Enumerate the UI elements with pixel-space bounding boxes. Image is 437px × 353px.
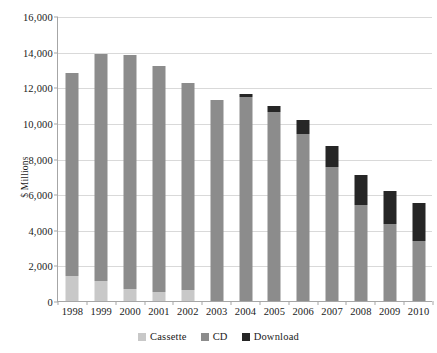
legend-label: CD [213,331,228,342]
x-axis-tick-mark [259,301,260,305]
gridline [58,17,432,18]
x-axis-tick-mark [173,301,174,305]
x-axis-tick-label-2006: 2006 [292,306,313,317]
y-axis-tick-label: 12,000 [23,83,53,94]
bar-2003[interactable] [210,100,223,301]
bar-segment-cd[interactable] [124,55,137,288]
x-axis-tick-label-2010: 2010 [408,306,429,317]
x-axis-tick-mark [144,301,145,305]
bar-2001[interactable] [152,66,165,301]
legend-label: Cassette [150,331,187,342]
x-axis-tick-mark [231,301,232,305]
y-axis-tick-mark [54,17,58,18]
y-axis-tick-label: 10,000 [23,118,53,129]
bar-segment-download[interactable] [326,146,339,166]
y-axis-tick-label: 0 [48,297,53,308]
x-axis-tick-mark [346,301,347,305]
bar-segment-cd[interactable] [354,205,367,301]
y-axis-tick-mark [54,266,58,267]
bar-segment-cassette[interactable] [181,290,194,301]
gridline [58,53,432,54]
x-axis-tick-mark [86,301,87,305]
bar-2004[interactable] [239,94,252,301]
x-axis-tick-label-2004: 2004 [235,306,256,317]
bar-2009[interactable] [383,191,396,301]
bar-segment-cassette[interactable] [66,276,79,301]
x-axis-tick-label-2000: 2000 [119,306,140,317]
y-axis-tick-mark [54,52,58,53]
bar-1999[interactable] [95,54,108,301]
x-axis-tick-label-2003: 2003 [206,306,227,317]
x-axis-tick-mark [317,301,318,305]
bar-2007[interactable] [326,146,339,301]
y-axis-tick-label: 2,000 [28,261,53,272]
bar-segment-cassette[interactable] [124,289,137,301]
y-axis-tick-label: 8,000 [28,154,53,165]
y-axis-tick-mark [54,123,58,124]
bar-segment-cassette[interactable] [95,281,108,301]
bar-chart: $ Millions 16,00014,00012,00010,0008,000… [0,0,437,353]
y-axis-tick-label: 14,000 [23,47,53,58]
bar-segment-download[interactable] [354,175,367,205]
x-axis-tick-label-2008: 2008 [350,306,371,317]
x-axis-tick-label-1999: 1999 [91,306,112,317]
x-axis-tick-mark [433,301,434,305]
bar-segment-cd[interactable] [181,83,194,291]
bar-2006[interactable] [297,120,310,301]
legend-item-cd[interactable]: CD [201,331,228,342]
x-axis-tick-mark [58,301,59,305]
x-axis-tick-label-2007: 2007 [321,306,342,317]
x-axis-tick-label-1998: 1998 [62,306,83,317]
bar-segment-download[interactable] [383,191,396,225]
x-axis-tick-label-2009: 2009 [379,306,400,317]
y-axis-tick-mark [54,88,58,89]
legend-label: Download [254,331,299,342]
y-axis-tick-label: 16,000 [23,12,53,23]
bar-segment-cd[interactable] [268,112,281,301]
x-axis-tick-label-2002: 2002 [177,306,198,317]
bar-2005[interactable] [268,106,281,301]
bar-segment-cd[interactable] [412,241,425,301]
bar-2000[interactable] [124,55,137,301]
bar-segment-cd[interactable] [152,66,165,292]
bar-segment-cd[interactable] [326,167,339,301]
bar-segment-cassette[interactable] [152,292,165,301]
bar-2002[interactable] [181,83,194,301]
legend-item-download[interactable]: Download [242,331,299,342]
bar-2010[interactable] [412,203,425,301]
bar-segment-cd[interactable] [95,54,108,280]
x-axis-tick-mark [202,301,203,305]
y-axis-tick-mark [54,230,58,231]
legend-item-cassette[interactable]: Cassette [138,331,187,342]
x-axis-tick-label-2005: 2005 [264,306,285,317]
bar-segment-cd[interactable] [239,97,252,301]
y-axis-tick-label: 4,000 [28,225,53,236]
chart-legend: CassetteCDDownload [0,331,437,342]
x-axis-tick-mark [404,301,405,305]
y-axis-tick-mark [54,159,58,160]
y-axis-tick-mark [54,195,58,196]
legend-swatch-icon [138,333,146,341]
plot-area: 16,00014,00012,00010,0008,0006,0004,0002… [57,17,432,302]
x-axis-tick-mark [115,301,116,305]
bar-1998[interactable] [66,73,79,301]
bar-segment-cd[interactable] [297,134,310,301]
bar-segment-download[interactable] [412,203,425,241]
x-axis-tick-label-2001: 2001 [148,306,169,317]
legend-swatch-icon [242,333,250,341]
bar-2008[interactable] [354,175,367,301]
bar-segment-cd[interactable] [383,224,396,301]
legend-swatch-icon [201,333,209,341]
gridline [58,88,432,89]
bar-segment-download[interactable] [297,120,310,133]
x-axis-tick-mark [288,301,289,305]
y-axis-tick-label: 6,000 [28,190,53,201]
bar-segment-cd[interactable] [66,73,79,276]
x-axis-tick-mark [375,301,376,305]
bar-segment-cd[interactable] [210,100,223,301]
